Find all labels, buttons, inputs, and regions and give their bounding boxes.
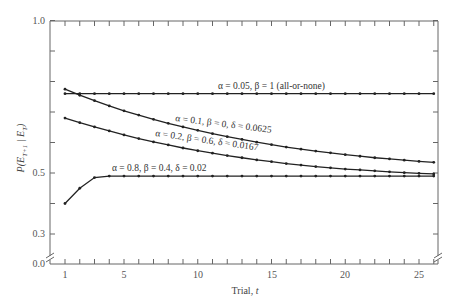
data-point (93, 176, 96, 179)
data-point (359, 155, 362, 158)
data-point (211, 92, 214, 95)
data-point (432, 161, 435, 164)
data-point (93, 126, 96, 129)
data-point (255, 158, 258, 161)
data-point (152, 175, 155, 178)
data-point (300, 164, 303, 167)
data-point (196, 175, 199, 178)
data-point (314, 175, 317, 178)
y-axis-title: P(ET+1 | ET) (15, 123, 29, 173)
data-point (152, 140, 155, 143)
data-point (344, 153, 347, 156)
data-point (78, 94, 81, 97)
y-tick-label: 0.0 (33, 258, 46, 269)
data-point (226, 154, 229, 157)
x-tick-label: 15 (267, 269, 277, 280)
data-point (108, 105, 111, 108)
data-point (314, 150, 317, 153)
data-point (255, 92, 258, 95)
x-tick-label: 10 (193, 269, 203, 280)
data-point (64, 117, 67, 120)
x-tick-label: 1 (63, 269, 68, 280)
series-label-alpha-0-8: α = 0.8, β = 0.4, δ = 0.02 (112, 163, 207, 173)
data-point (123, 92, 126, 95)
data-point (211, 175, 214, 178)
data-point (167, 175, 170, 178)
data-point (359, 169, 362, 172)
data-point (196, 129, 199, 132)
line-chart: 1.0 0.5 0.3 0.0 1 5 10 15 20 25 Trial, t… (0, 0, 457, 307)
data-point (403, 159, 406, 162)
data-point (137, 92, 140, 95)
data-point (388, 175, 391, 178)
data-point (285, 162, 288, 165)
data-point (93, 99, 96, 102)
data-point (403, 171, 406, 174)
data-point (123, 133, 126, 136)
data-point (270, 160, 273, 163)
data-point (432, 92, 435, 95)
series-line (65, 176, 434, 203)
data-point (64, 202, 67, 205)
data-point (226, 175, 229, 178)
data-point (403, 92, 406, 95)
data-point (329, 151, 332, 154)
data-point (329, 175, 332, 178)
data-point (418, 172, 421, 175)
data-point (64, 92, 67, 95)
data-point (329, 166, 332, 169)
data-point (285, 92, 288, 95)
data-point (93, 92, 96, 95)
data-point (344, 168, 347, 171)
data-point (226, 92, 229, 95)
data-point (137, 114, 140, 117)
data-point (108, 130, 111, 133)
x-axis-title: Trial, t (232, 285, 259, 296)
data-point (182, 147, 185, 150)
data-point (123, 109, 126, 112)
data-point (270, 175, 273, 178)
x-tick-label: 25 (414, 269, 424, 280)
data-point (241, 92, 244, 95)
series-label-alpha-0-1: α = 0.1, β = 0, δ = 0.0625 (175, 113, 273, 135)
data-point (78, 187, 81, 190)
x-tick-label: 20 (340, 269, 350, 280)
data-point (211, 132, 214, 135)
data-point (388, 170, 391, 173)
data-point (344, 92, 347, 95)
x-tick-label: 5 (122, 269, 127, 280)
data-point (388, 158, 391, 161)
data-point (182, 92, 185, 95)
data-point (373, 175, 376, 178)
data-point (285, 146, 288, 149)
data-point (64, 88, 67, 91)
data-point (78, 121, 81, 124)
data-point (182, 126, 185, 129)
data-point (388, 92, 391, 95)
data-point (137, 137, 140, 140)
data-point (270, 92, 273, 95)
data-point (359, 92, 362, 95)
data-point (167, 122, 170, 125)
series-label-all-or-none: α = 0.05, β = 1 (all-or-none) (218, 81, 325, 92)
series-label-alpha-0-2: α = 0.2, β = 0.6, δ = 0.0167 (155, 128, 260, 152)
data-point (137, 175, 140, 178)
data-point (344, 175, 347, 178)
data-point (329, 92, 332, 95)
data-point (373, 156, 376, 159)
data-point (418, 175, 421, 178)
data-point (167, 144, 170, 147)
y-tick-label: 0.3 (33, 228, 46, 239)
data-point (403, 175, 406, 178)
data-point (285, 175, 288, 178)
data-point (167, 92, 170, 95)
y-tick-label: 1.0 (33, 15, 46, 26)
data-point (418, 92, 421, 95)
data-point (314, 92, 317, 95)
data-point (108, 92, 111, 95)
data-point (196, 92, 199, 95)
data-point (152, 92, 155, 95)
data-point (108, 175, 111, 178)
y-tick-label: 0.5 (33, 167, 46, 178)
data-point (432, 175, 435, 178)
